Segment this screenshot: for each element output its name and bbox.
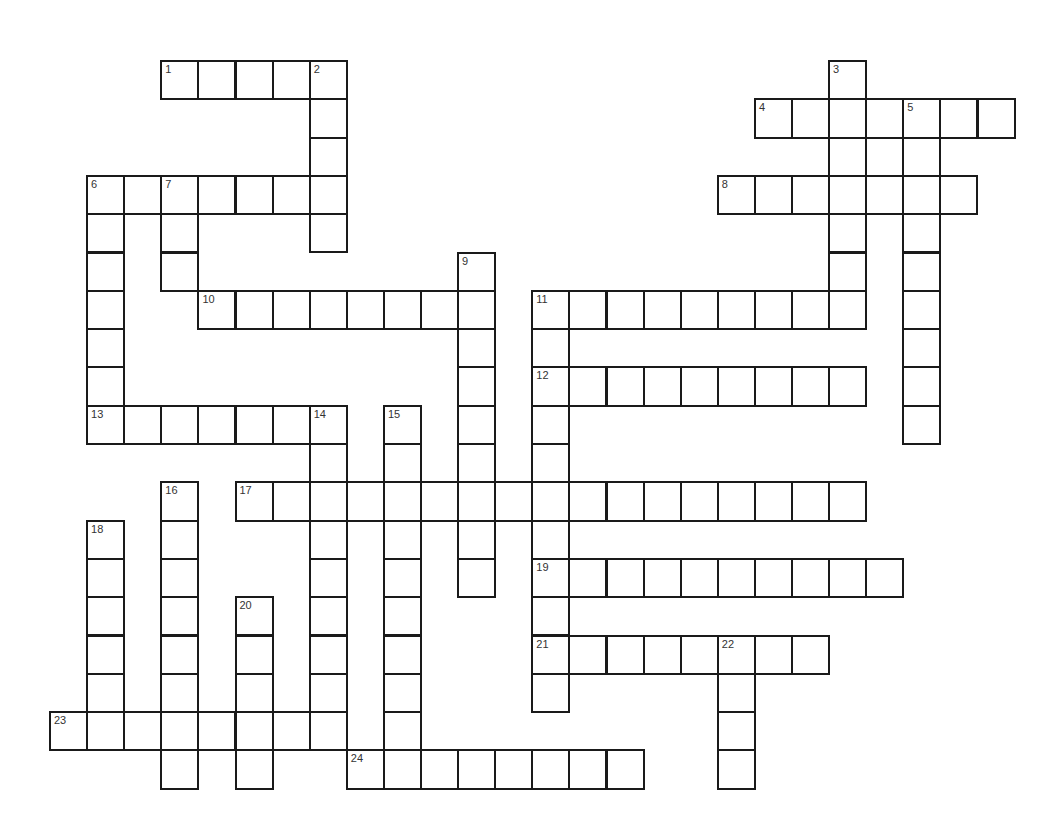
crossword-cell[interactable] [383, 635, 422, 675]
crossword-cell[interactable] [494, 749, 533, 789]
crossword-cell[interactable] [309, 673, 348, 713]
crossword-cell[interactable] [457, 328, 496, 368]
crossword-cell[interactable] [160, 673, 199, 713]
crossword-cell[interactable] [309, 711, 348, 751]
crossword-cell[interactable] [86, 558, 125, 598]
crossword-cell[interactable] [902, 213, 941, 253]
crossword-cell[interactable] [680, 290, 719, 330]
crossword-cell[interactable] [160, 405, 199, 445]
crossword-cell[interactable] [531, 520, 570, 560]
crossword-cell[interactable] [160, 596, 199, 636]
crossword-cell[interactable] [939, 98, 978, 138]
crossword-cell[interactable] [643, 481, 682, 521]
crossword-cell[interactable] [235, 60, 274, 100]
crossword-cell[interactable] [86, 366, 125, 406]
crossword-cell[interactable] [606, 635, 645, 675]
crossword-cell[interactable] [606, 481, 645, 521]
crossword-cell[interactable]: 18 [86, 520, 125, 560]
crossword-cell[interactable]: 15 [383, 405, 422, 445]
crossword-cell[interactable] [902, 328, 941, 368]
crossword-cell[interactable]: 6 [86, 175, 125, 215]
crossword-cell[interactable] [420, 481, 459, 521]
crossword-cell[interactable] [235, 749, 274, 789]
crossword-cell[interactable] [272, 405, 311, 445]
crossword-cell[interactable] [717, 711, 756, 751]
crossword-cell[interactable]: 24 [346, 749, 385, 789]
crossword-cell[interactable] [717, 749, 756, 789]
crossword-cell[interactable] [865, 98, 904, 138]
crossword-cell[interactable] [717, 558, 756, 598]
crossword-cell[interactable]: 23 [49, 711, 88, 751]
crossword-cell[interactable] [420, 290, 459, 330]
crossword-cell[interactable] [457, 366, 496, 406]
crossword-cell[interactable] [828, 290, 867, 330]
crossword-cell[interactable] [197, 711, 236, 751]
crossword-cell[interactable]: 7 [160, 175, 199, 215]
crossword-cell[interactable] [383, 749, 422, 789]
crossword-cell[interactable]: 11 [531, 290, 570, 330]
crossword-cell[interactable] [902, 175, 941, 215]
crossword-cell[interactable] [494, 481, 533, 521]
crossword-cell[interactable] [197, 405, 236, 445]
crossword-cell[interactable] [123, 175, 162, 215]
crossword-cell[interactable] [309, 481, 348, 521]
crossword-cell[interactable]: 17 [235, 481, 274, 521]
crossword-cell[interactable]: 13 [86, 405, 125, 445]
crossword-cell[interactable] [86, 635, 125, 675]
crossword-cell[interactable] [309, 443, 348, 483]
crossword-cell[interactable] [606, 366, 645, 406]
crossword-cell[interactable]: 16 [160, 481, 199, 521]
crossword-cell[interactable] [531, 328, 570, 368]
crossword-cell[interactable] [160, 558, 199, 598]
crossword-cell[interactable]: 3 [828, 60, 867, 100]
crossword-cell[interactable] [235, 711, 274, 751]
crossword-cell[interactable]: 1 [160, 60, 199, 100]
crossword-cell[interactable] [680, 481, 719, 521]
crossword-cell[interactable] [457, 558, 496, 598]
crossword-cell[interactable] [717, 366, 756, 406]
crossword-cell[interactable] [457, 749, 496, 789]
crossword-cell[interactable] [828, 252, 867, 292]
crossword-cell[interactable] [160, 252, 199, 292]
crossword-cell[interactable] [86, 673, 125, 713]
crossword-cell[interactable] [235, 405, 274, 445]
crossword-cell[interactable]: 2 [309, 60, 348, 100]
crossword-cell[interactable] [309, 635, 348, 675]
crossword-cell[interactable] [754, 635, 793, 675]
crossword-cell[interactable] [680, 366, 719, 406]
crossword-cell[interactable] [86, 290, 125, 330]
crossword-cell[interactable] [754, 366, 793, 406]
crossword-cell[interactable] [346, 481, 385, 521]
crossword-cell[interactable] [383, 443, 422, 483]
crossword-cell[interactable] [568, 635, 607, 675]
crossword-cell[interactable] [828, 366, 867, 406]
crossword-cell[interactable]: 9 [457, 252, 496, 292]
crossword-cell[interactable] [272, 290, 311, 330]
crossword-cell[interactable] [457, 443, 496, 483]
crossword-cell[interactable] [754, 175, 793, 215]
crossword-cell[interactable] [160, 749, 199, 789]
crossword-cell[interactable] [828, 481, 867, 521]
crossword-cell[interactable] [865, 175, 904, 215]
crossword-cell[interactable] [902, 252, 941, 292]
crossword-cell[interactable] [160, 711, 199, 751]
crossword-cell[interactable] [531, 481, 570, 521]
crossword-cell[interactable] [309, 98, 348, 138]
crossword-cell[interactable] [754, 290, 793, 330]
crossword-cell[interactable] [531, 596, 570, 636]
crossword-cell[interactable] [791, 635, 830, 675]
crossword-cell[interactable] [828, 213, 867, 253]
crossword-cell[interactable] [309, 558, 348, 598]
crossword-cell[interactable] [235, 635, 274, 675]
crossword-cell[interactable] [680, 558, 719, 598]
crossword-cell[interactable]: 14 [309, 405, 348, 445]
crossword-cell[interactable] [457, 405, 496, 445]
crossword-cell[interactable]: 21 [531, 635, 570, 675]
crossword-cell[interactable] [235, 175, 274, 215]
crossword-cell[interactable] [939, 175, 978, 215]
crossword-cell[interactable] [160, 635, 199, 675]
crossword-cell[interactable] [568, 366, 607, 406]
crossword-cell[interactable]: 4 [754, 98, 793, 138]
crossword-cell[interactable] [383, 481, 422, 521]
crossword-cell[interactable] [643, 366, 682, 406]
